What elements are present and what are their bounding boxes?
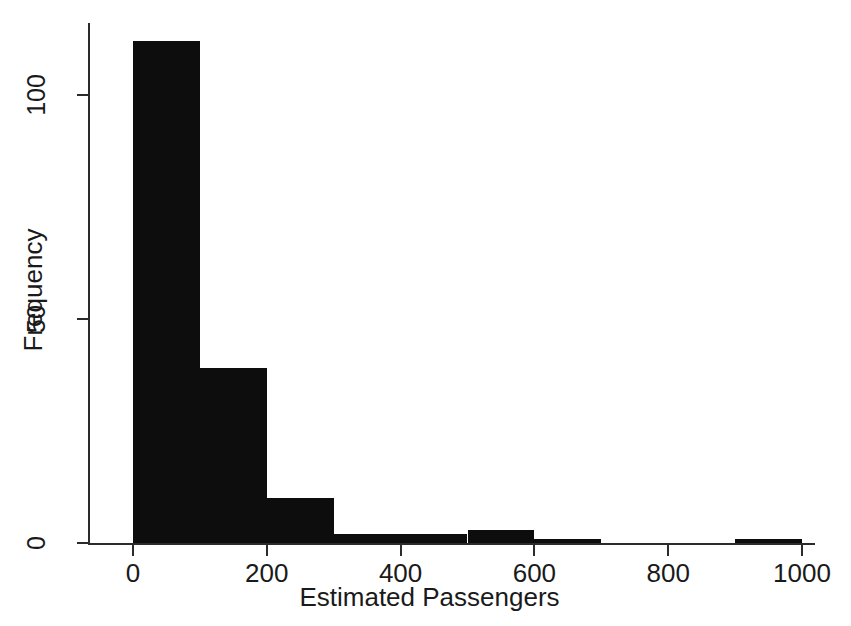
y-axis-tick bbox=[77, 94, 88, 96]
x-axis-title: Estimated Passengers bbox=[0, 582, 851, 613]
histogram-bar bbox=[735, 539, 802, 543]
y-axis-tick-label: 0 bbox=[22, 508, 51, 578]
histogram-bar bbox=[133, 41, 200, 543]
x-axis-tick bbox=[801, 545, 803, 556]
y-axis-tick bbox=[77, 542, 88, 544]
y-axis-tick bbox=[77, 318, 88, 320]
x-axis-tick bbox=[266, 545, 268, 556]
histogram-bar bbox=[534, 539, 601, 543]
histogram-bar bbox=[468, 530, 535, 543]
histogram-bar bbox=[267, 498, 334, 543]
x-axis-tick bbox=[132, 545, 134, 556]
y-axis-tick-label: 100 bbox=[22, 60, 51, 130]
x-axis-line bbox=[88, 543, 815, 545]
histogram-figure: 050100 02004006008001000 Frequency Estim… bbox=[0, 0, 851, 626]
histogram-bar bbox=[401, 534, 468, 543]
y-axis-line bbox=[88, 23, 90, 544]
histogram-bar bbox=[334, 534, 401, 543]
x-axis-title-text: Estimated Passengers bbox=[299, 582, 559, 613]
plot-area: 050100 02004006008001000 Frequency Estim… bbox=[0, 0, 851, 626]
histogram-bar bbox=[200, 368, 267, 543]
x-axis-tick bbox=[533, 545, 535, 556]
x-axis-tick bbox=[400, 545, 402, 556]
x-axis-tick bbox=[667, 545, 669, 556]
y-axis-title: Frequency bbox=[18, 229, 49, 352]
